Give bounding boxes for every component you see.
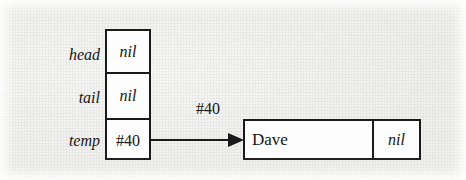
variable-label-temp: temp <box>20 133 100 149</box>
pointer-arrow-line <box>151 139 231 141</box>
variable-label-tail: tail <box>20 90 100 106</box>
variable-cell-temp: #40 <box>107 120 149 162</box>
dave-node: Dave nil <box>243 119 421 160</box>
variable-stack-box: nil nil #40 <box>105 29 151 160</box>
figure-canvas: head tail temp nil nil #40 #40 Dave nil <box>0 0 466 180</box>
node-data-field: Dave <box>245 121 374 158</box>
pointer-arrow-head-icon <box>228 133 244 147</box>
variable-cell-head: nil <box>107 31 149 74</box>
variable-cell-tail: nil <box>107 74 149 120</box>
pointer-address-label: #40 <box>196 101 220 117</box>
node-next-field: nil <box>374 121 419 158</box>
variable-label-head: head <box>20 47 100 63</box>
